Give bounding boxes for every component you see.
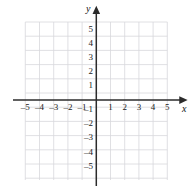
y-tick-label: –5	[77, 162, 93, 171]
y-tick-label: 5	[77, 25, 93, 34]
y-tick-label: 3	[77, 53, 93, 62]
y-tick-label: –2	[77, 119, 93, 128]
y-tick-label: –1	[77, 105, 93, 114]
x-tick-label: 5	[159, 103, 175, 112]
grid-and-axes	[0, 0, 196, 194]
y-tick-label: 4	[77, 39, 93, 48]
coordinate-plane-figure: y x –5 –4 –3 –2 –1 1 2 3 4 5 5 4 3 2 1 –…	[0, 0, 196, 194]
y-tick-label: –4	[77, 148, 93, 157]
y-axis-label: y	[86, 4, 90, 14]
y-tick-label: –3	[77, 133, 93, 142]
x-axis-label: x	[182, 104, 186, 114]
y-tick-label: 1	[77, 81, 93, 90]
y-tick-label: 2	[77, 67, 93, 76]
